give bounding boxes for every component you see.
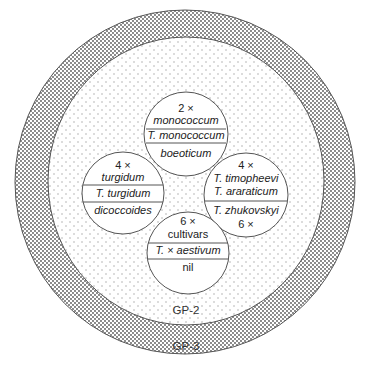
ploidy-label-2: 6 × — [238, 218, 254, 230]
species-label-3: T. zhukovskyi — [213, 204, 279, 216]
species-prefix: T. — [155, 244, 164, 256]
gp3-label: GP-3 — [173, 340, 200, 352]
species-label-1: T. timopheevi — [213, 172, 279, 184]
cultivated-label: monococcum — [153, 114, 218, 126]
gene-pool-diagram: 2 × monococcum T. monococcum boeoticum 4… — [0, 0, 370, 377]
circle-bottom-aestivum: 6 × cultivars T.×aestivum nil — [147, 212, 229, 294]
species-name: aestivum — [177, 244, 221, 256]
wild-label: boeoticum — [161, 147, 212, 159]
cultivated-label: turgidum — [102, 171, 145, 183]
ploidy-label: 4 × — [115, 159, 131, 171]
species-label: T. monococcum — [147, 129, 224, 141]
species-label-2: T. araraticum — [214, 185, 278, 197]
species-label: T. turgidum — [96, 187, 151, 199]
ploidy-label: 2 × — [178, 102, 194, 114]
ploidy-label: 4 × — [238, 159, 254, 171]
gp2-label: GP-2 — [173, 304, 200, 316]
circle-left-turgidum: 4 × turgidum T. turgidum dicoccoides — [82, 152, 164, 234]
wild-label: nil — [182, 261, 193, 273]
circle-top-monococcum: 2 × monococcum T. monococcum boeoticum — [144, 92, 228, 176]
hybrid-cross-symbol: × — [167, 244, 173, 256]
cultivated-label: cultivars — [168, 228, 209, 240]
wild-label: dicoccoides — [94, 204, 152, 216]
ploidy-label: 6 × — [180, 215, 196, 227]
